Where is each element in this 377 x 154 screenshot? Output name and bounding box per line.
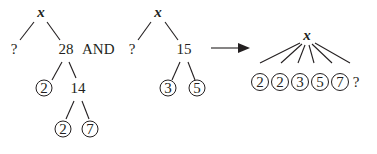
and-connector: AND: [82, 41, 115, 57]
edge: [52, 62, 62, 80]
prime-factor: 3: [296, 74, 304, 90]
unknown-factor: ?: [353, 74, 360, 90]
edge: [47, 22, 60, 40]
prime-factor: 5: [316, 74, 324, 90]
edge: [82, 101, 89, 119]
factor-tree-2: x ? 15 3 5: [129, 4, 205, 96]
prime-factor: 7: [86, 121, 94, 137]
prime-factor: 2: [276, 74, 284, 90]
tree1-node-14: 14: [71, 80, 87, 96]
prime-factor: 3: [164, 80, 172, 96]
right-arrow-icon: [211, 43, 250, 53]
edge: [298, 45, 305, 63]
edge: [69, 62, 76, 78]
edge: [165, 22, 178, 40]
combined-factor-tree: x 2 2 3 5 7 ?: [252, 27, 360, 91]
tree1-root: x: [36, 4, 45, 20]
prime-factor: 2: [40, 80, 48, 96]
tree1-node-28: 28: [59, 41, 74, 57]
edge: [188, 62, 195, 80]
prime-factor: 2: [256, 74, 264, 90]
prime-factor: 7: [336, 74, 344, 90]
tree1-unknown-factor: ?: [11, 41, 18, 57]
edge: [172, 62, 180, 80]
edge: [309, 45, 314, 63]
edge: [138, 22, 151, 40]
factor-tree-1: x ? 28 2 14 2 7: [11, 4, 98, 137]
edge: [20, 22, 34, 40]
tree2-root: x: [153, 4, 162, 20]
prime-factor: 2: [59, 121, 67, 137]
edge: [315, 43, 350, 63]
result-root: x: [302, 27, 311, 43]
edge: [260, 43, 300, 63]
factor-tree-diagram: x ? 28 2 14 2 7 AND x ? 15 3 5: [0, 0, 377, 154]
tree2-node-15: 15: [177, 41, 192, 57]
edge: [66, 101, 74, 119]
prime-factor: 5: [193, 80, 201, 96]
tree2-unknown-factor: ?: [129, 41, 136, 57]
